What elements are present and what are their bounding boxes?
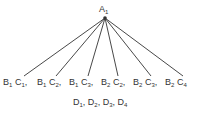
leaf-label: B1 C3,	[69, 78, 93, 88]
footer-label: D1, D2, D3, D4	[73, 98, 127, 108]
tree-edge	[56, 18, 105, 76]
root-node-dot	[103, 16, 107, 20]
tree-edge	[88, 18, 105, 76]
root-node-label: A1	[99, 5, 108, 15]
leaf-label: B2 C4	[165, 78, 187, 88]
leaf-label: B1 C1,	[3, 78, 27, 88]
leaf-label: B1 C2,	[37, 78, 61, 88]
leaf-label: B2 C3,	[133, 78, 157, 88]
tree-edge	[24, 18, 105, 76]
leaf-label: B2 C2,	[101, 78, 125, 88]
